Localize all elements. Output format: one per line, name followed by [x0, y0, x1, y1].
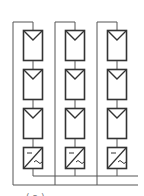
pv-panel — [66, 70, 85, 100]
pv-panel — [108, 31, 127, 61]
pv-panel — [24, 31, 43, 61]
pv-diagram — [0, 0, 144, 196]
pv-panel — [24, 70, 43, 100]
figure-caption: (a) · · · · · · — [0, 192, 144, 196]
pv-panel — [66, 31, 85, 61]
pv-panel — [24, 109, 43, 139]
pv-panel — [108, 70, 127, 100]
pv-panel — [108, 109, 127, 139]
pv-panel — [66, 109, 85, 139]
